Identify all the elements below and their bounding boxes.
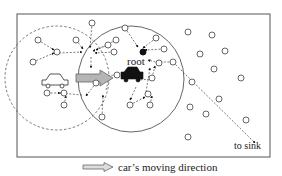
caption-text: car’s moving direction xyxy=(118,161,217,173)
hollow-right-arrow-icon xyxy=(82,162,114,172)
to-sink-label: to sink xyxy=(234,140,261,151)
figure-caption: car’s moving direction xyxy=(82,161,217,173)
car-outline-icon xyxy=(42,74,68,88)
root-label: root xyxy=(127,55,145,67)
field-frame xyxy=(17,14,270,157)
car-filled-icon xyxy=(121,67,143,82)
